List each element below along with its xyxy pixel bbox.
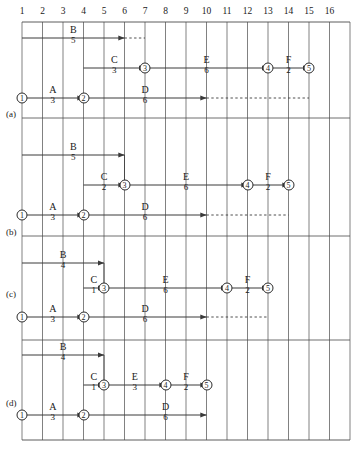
activity-duration: 6 (203, 66, 209, 75)
column-header-6: 6 (122, 6, 127, 16)
activity-name: B (60, 250, 67, 260)
column-header-3: 3 (61, 6, 66, 16)
event-node-4: 4 (222, 283, 233, 294)
activity-duration: 6 (162, 413, 169, 422)
section-label: (c) (6, 290, 16, 299)
column-header-7: 7 (143, 6, 148, 16)
activity-duration: 6 (183, 183, 189, 192)
activity-name: E (132, 372, 138, 382)
event-node-1: 1 (17, 210, 28, 221)
activity-duration: 3 (132, 383, 138, 392)
event-node-3: 3 (99, 380, 110, 391)
activity-label-A: A3 (49, 402, 56, 422)
section-label: (d) (6, 399, 17, 408)
activity-label-B: B5 (70, 142, 77, 162)
event-node-5: 5 (283, 180, 294, 191)
activity-label-E: E6 (203, 55, 209, 75)
column-header-10: 10 (202, 6, 212, 16)
activity-label-A: A3 (49, 304, 56, 324)
column-header-1: 1 (20, 6, 25, 16)
activity-label-F: F2 (286, 55, 292, 75)
activity-name: C (111, 55, 118, 65)
activity-label-B: B5 (70, 25, 77, 45)
activity-name: A (49, 85, 56, 95)
event-node-2: 2 (78, 210, 89, 221)
activity-duration: 2 (245, 286, 251, 295)
activity-label-B: B4 (60, 250, 67, 270)
activity-name: F (245, 275, 251, 285)
column-header-12: 12 (243, 6, 253, 16)
activity-name: E (162, 275, 168, 285)
column-header-8: 8 (163, 6, 168, 16)
activity-duration: 3 (49, 315, 56, 324)
activity-label-D: D6 (141, 202, 148, 222)
activity-duration: 5 (70, 153, 77, 162)
activity-duration: 5 (70, 36, 77, 45)
activity-name: F (183, 372, 189, 382)
column-header-11: 11 (222, 6, 231, 16)
activity-duration: 6 (141, 213, 148, 222)
event-node-2: 2 (78, 410, 89, 421)
activity-label-A: A3 (49, 85, 56, 105)
activity-label-B: B4 (60, 342, 67, 362)
activity-label-A: A3 (49, 202, 56, 222)
section-label: (a) (6, 110, 16, 119)
event-node-2: 2 (78, 93, 89, 104)
activity-label-C: C2 (101, 172, 108, 192)
event-node-2: 2 (78, 312, 89, 323)
activity-label-C: C1 (90, 275, 97, 295)
activity-name: A (49, 202, 56, 212)
event-node-5: 5 (201, 380, 212, 391)
activity-name: C (90, 372, 97, 382)
activity-duration: 2 (265, 183, 271, 192)
activity-name: D (141, 85, 148, 95)
activity-label-D: D6 (141, 304, 148, 324)
activity-label-F: F2 (265, 172, 271, 192)
activity-name: C (101, 172, 108, 182)
activity-name: A (49, 402, 56, 412)
column-header-15: 15 (304, 6, 314, 16)
activity-name: C (90, 275, 97, 285)
activity-name: B (60, 342, 67, 352)
section-label: (b) (6, 228, 17, 237)
activity-duration: 6 (141, 96, 148, 105)
event-node-1: 1 (17, 93, 28, 104)
column-header-2: 2 (40, 6, 45, 16)
activity-name: E (183, 172, 189, 182)
activity-name: B (70, 142, 77, 152)
activity-duration: 6 (141, 315, 148, 324)
column-header-5: 5 (102, 6, 107, 16)
column-header-9: 9 (184, 6, 189, 16)
activity-name: B (70, 25, 77, 35)
activity-duration: 3 (49, 96, 56, 105)
activity-duration: 2 (101, 183, 108, 192)
column-header-14: 14 (284, 6, 294, 16)
event-node-4: 4 (160, 380, 171, 391)
event-node-3: 3 (99, 283, 110, 294)
activity-duration: 3 (49, 413, 56, 422)
activity-duration: 1 (90, 286, 97, 295)
activity-label-D: D6 (141, 85, 148, 105)
event-node-3: 3 (140, 63, 151, 74)
event-node-1: 1 (17, 312, 28, 323)
activity-duration: 3 (49, 213, 56, 222)
activity-name: E (203, 55, 209, 65)
activity-label-F: F2 (183, 372, 189, 392)
activity-label-F: F2 (245, 275, 251, 295)
event-node-4: 4 (263, 63, 274, 74)
activity-duration: 6 (162, 286, 168, 295)
event-node-1: 1 (17, 410, 28, 421)
activity-label-D: D6 (162, 402, 169, 422)
column-header-16: 16 (325, 6, 335, 16)
activity-label-C: C1 (90, 372, 97, 392)
activity-duration: 2 (286, 66, 292, 75)
activity-duration: 4 (60, 261, 67, 270)
activity-duration: 1 (90, 383, 97, 392)
event-node-5: 5 (304, 63, 315, 74)
event-node-4: 4 (242, 180, 253, 191)
activity-label-C: C3 (111, 55, 118, 75)
activity-name: D (162, 402, 169, 412)
activity-name: D (141, 202, 148, 212)
event-node-5: 5 (263, 283, 274, 294)
activity-name: F (265, 172, 271, 182)
